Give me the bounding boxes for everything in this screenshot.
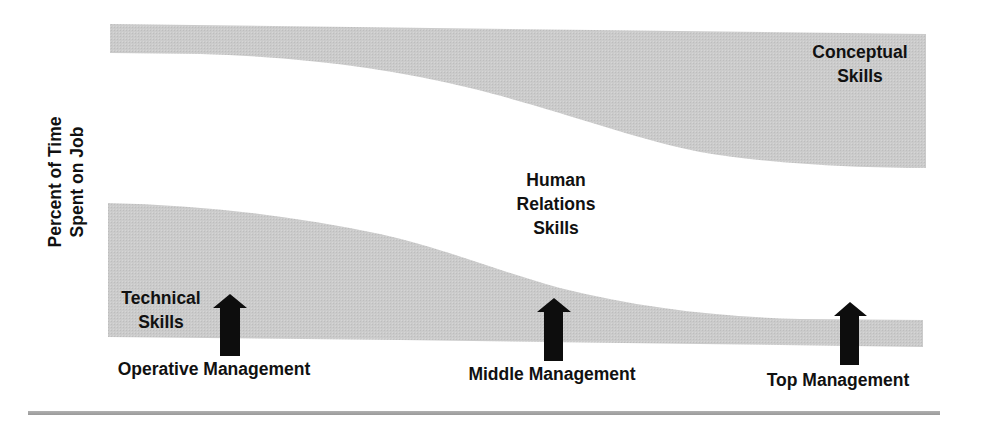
- human-relations-skills-label: Human Relations Skills: [486, 168, 626, 240]
- y-axis-label-line1: Percent of Time: [44, 82, 66, 282]
- level-label-middle-management: Middle Management: [432, 362, 672, 386]
- management-skills-diagram: Percent of Time Spent on Job Conceptual …: [0, 0, 982, 425]
- technical-skills-label: Technical Skills: [101, 286, 221, 334]
- conceptual-skills-label: Conceptual Skills: [790, 40, 930, 88]
- level-label-top-management: Top Management: [728, 368, 948, 392]
- bottom-divider: [28, 411, 940, 415]
- level-label-operative-management: Operative Management: [84, 357, 344, 381]
- y-axis-label-line2: Spent on Job: [66, 82, 88, 282]
- y-axis-label: Percent of Time Spent on Job: [38, 82, 94, 282]
